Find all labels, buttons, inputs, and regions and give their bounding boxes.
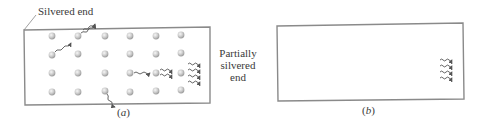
atom-grid	[49, 32, 185, 96]
label-partial-line1: Partially	[212, 47, 264, 59]
atom	[153, 33, 160, 40]
atom	[75, 33, 82, 40]
atom	[153, 70, 160, 77]
caption-b-close: )	[371, 104, 375, 116]
atom	[75, 70, 82, 77]
caption-a: (a)	[117, 106, 130, 118]
photon-wave-icon	[188, 69, 200, 71]
photon-wave-icon	[440, 59, 452, 61]
photon-paths-b	[440, 59, 452, 79]
atom	[102, 51, 109, 58]
photon-wave-icon	[160, 69, 172, 71]
photon-wave-icon	[440, 77, 452, 79]
atom	[178, 50, 185, 57]
atom	[75, 51, 82, 58]
atom	[127, 51, 134, 58]
label-partial-line2: silvered	[212, 59, 264, 71]
photon-wave-icon	[107, 94, 115, 107]
atom	[153, 51, 160, 58]
photon-wave-icon	[440, 65, 452, 67]
panel-b	[277, 23, 464, 101]
photon-wave-icon	[188, 63, 200, 65]
photon-wave-icon	[134, 72, 150, 74]
label-partial-line3: end	[212, 71, 264, 83]
caption-a-close: )	[126, 106, 130, 118]
photon-wave-icon	[188, 75, 200, 77]
panel-b-frame	[277, 23, 464, 101]
atom	[49, 52, 56, 59]
label-silvered-end: Silvered end	[38, 5, 93, 17]
atom	[127, 89, 134, 96]
photon-wave-icon	[55, 43, 71, 52]
atom	[178, 70, 185, 77]
atom	[49, 89, 56, 96]
atom	[49, 70, 56, 77]
atom	[127, 33, 134, 40]
atom	[102, 70, 109, 77]
atom	[75, 89, 82, 96]
atom	[178, 32, 185, 39]
caption-b: (b)	[362, 104, 375, 116]
atom	[153, 88, 160, 95]
photon-wave-icon	[440, 71, 452, 73]
photon-wave-icon	[188, 81, 200, 83]
silvered-end-leader	[24, 15, 36, 30]
atom	[102, 88, 109, 95]
atom	[178, 87, 185, 94]
photon-wave-icon	[160, 74, 172, 76]
label-partially-silvered-end: Partially silvered end	[212, 47, 264, 83]
atom	[127, 70, 134, 77]
atom	[102, 33, 109, 40]
panel-a	[24, 15, 210, 107]
atom	[49, 33, 56, 40]
